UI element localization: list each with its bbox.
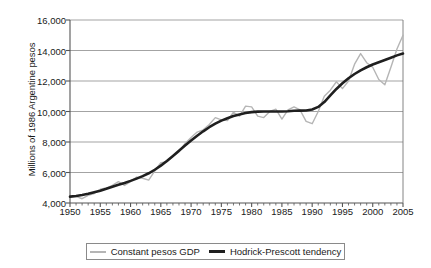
- legend-item-constant-pesos-gdp: Constant pesos GDP: [90, 246, 200, 257]
- legend-label-hp: Hodrick-Prescott tendency: [230, 246, 341, 257]
- chart-figure: Millions of 1986 Argentine pesos 4,0006,…: [0, 0, 431, 268]
- legend-swatch-hp-icon: [209, 250, 225, 253]
- legend-label-gdp: Constant pesos GDP: [111, 246, 200, 257]
- series-line-gdp: [70, 35, 403, 198]
- legend-swatch-gdp-icon: [90, 251, 106, 253]
- chart-legend: Constant pesos GDP Hodrick-Prescott tend…: [86, 243, 345, 260]
- series-line-hp-tendency: [70, 54, 403, 197]
- plot-area: [0, 0, 431, 268]
- legend-item-hodrick-prescott-tendency: Hodrick-Prescott tendency: [209, 246, 341, 257]
